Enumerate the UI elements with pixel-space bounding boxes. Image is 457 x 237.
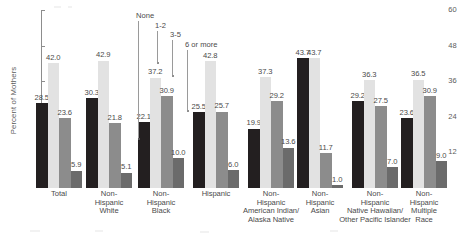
x-axis-group-label-line: Black	[133, 207, 189, 216]
bar	[424, 96, 436, 188]
scan-artifact	[95, 230, 103, 232]
bar	[228, 170, 240, 188]
legend-leader-endpoint-3	[172, 75, 174, 77]
bar-value-label: 43.7	[307, 48, 321, 57]
bar-value-label: 6.0	[228, 160, 238, 169]
legend-leader-line-4	[187, 50, 188, 110]
bar-value-label: 42.8	[203, 51, 217, 60]
bar-value-label: 13.6	[281, 137, 295, 146]
bar-value-label: 10.0	[171, 148, 185, 157]
bar	[138, 122, 150, 188]
bar	[309, 58, 321, 188]
bar	[401, 118, 413, 188]
bar-value-label: 36.3	[362, 70, 376, 79]
bar	[193, 112, 205, 188]
bar	[413, 80, 425, 188]
bar	[86, 98, 98, 188]
x-axis-group-label-line: Alaska Native	[231, 216, 311, 225]
bar	[297, 58, 309, 188]
bar	[375, 106, 387, 188]
legend-leader-line-3	[172, 40, 173, 75]
bar-value-label: 25.7	[215, 101, 229, 110]
scan-artifact	[68, 6, 72, 8]
bar-value-label: 36.5	[411, 69, 425, 78]
legend-label-4: 6 or more	[185, 40, 218, 49]
x-axis-group-label-line: Race	[396, 216, 452, 225]
bar-value-label: 27.5	[374, 96, 388, 105]
bar	[98, 61, 110, 188]
legend-leader-endpoint-4	[187, 110, 189, 112]
bar	[71, 171, 83, 189]
x-axis-group-label-line: White	[81, 207, 137, 216]
bar	[283, 148, 295, 188]
bar-value-label: 23.6	[58, 108, 72, 117]
x-axis-group-label: Total	[31, 190, 87, 199]
bar-value-label: 5.9	[71, 160, 81, 169]
plot-area: 28.542.023.65.930.342.921.85.122.137.230…	[42, 10, 454, 188]
legend-label-3: 3-5	[170, 30, 181, 39]
scan-artifact	[330, 230, 338, 232]
x-axis-group-label: Non-HispanicWhite	[81, 190, 137, 216]
bar-value-label: 42.0	[46, 53, 60, 62]
bar-value-label: 5.1	[121, 162, 131, 171]
scan-artifact	[30, 230, 40, 232]
legend-label-1: None	[136, 11, 154, 20]
bar	[205, 61, 217, 188]
bar	[387, 167, 399, 188]
legend-label-2: 1-2	[155, 21, 166, 30]
bar-value-label: 29.2	[270, 91, 284, 100]
legend-leader-line-2	[157, 31, 158, 62]
bar-value-label: 7.0	[387, 157, 397, 166]
legend-leader-endpoint-1	[138, 138, 140, 140]
bar-chart: Percent of Mothers 1224364860 28.542.023…	[0, 0, 457, 237]
bar-value-label: 30.9	[160, 86, 174, 95]
bar	[59, 118, 71, 188]
bar	[161, 96, 173, 188]
bar	[36, 103, 48, 188]
bar-value-label: 30.9	[423, 86, 437, 95]
bar	[173, 158, 185, 188]
bar	[109, 123, 121, 188]
bar	[332, 185, 344, 188]
bar	[248, 129, 260, 188]
bar-value-label: 9.0	[436, 151, 446, 160]
y-axis-title: Percent of Mothers	[9, 36, 18, 166]
x-axis-group-label: Non-HispanicBlack	[133, 190, 189, 216]
bar	[436, 161, 448, 188]
bar-value-label: 37.3	[258, 67, 272, 76]
bar	[320, 153, 332, 188]
bar	[352, 101, 364, 188]
bar-value-label: 37.2	[148, 67, 162, 76]
x-axis-group-label: Non-HispanicMultipleRace	[396, 190, 452, 224]
bar	[48, 63, 60, 188]
bar-value-label: 42.9	[96, 50, 110, 59]
bar-value-label: 11.7	[319, 143, 333, 152]
bar	[216, 112, 228, 188]
x-axis-group-label-line: Total	[31, 190, 87, 199]
legend-leader-line-1	[138, 21, 139, 138]
bar-value-label: 1.0	[332, 175, 342, 184]
scan-artifact	[200, 231, 209, 233]
bar	[121, 173, 133, 188]
bar-value-label: 21.8	[108, 113, 122, 122]
scan-artifact	[54, 6, 61, 8]
legend-leader-endpoint-2	[157, 62, 159, 64]
